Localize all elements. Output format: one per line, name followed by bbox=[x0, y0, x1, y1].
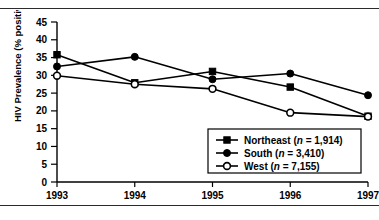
data-point-marker-open-circle bbox=[365, 113, 372, 120]
data-point-marker-filled-circle bbox=[365, 92, 372, 99]
data-point-marker-filled-square bbox=[287, 84, 293, 90]
y-axis-ticks: 051015202530354045 bbox=[36, 17, 57, 188]
y-tick-label: 40 bbox=[36, 34, 48, 45]
y-tick-label: 15 bbox=[36, 123, 48, 134]
data-point-marker-open-circle bbox=[224, 163, 231, 170]
y-tick-label: 0 bbox=[41, 177, 47, 188]
x-axis-ticks: 19931994199519961997 bbox=[46, 182, 379, 201]
legend-label: West (n = 7,155) bbox=[244, 161, 320, 172]
x-tick-label: 1996 bbox=[279, 190, 302, 201]
y-tick-label: 30 bbox=[36, 70, 48, 81]
bottom-horizontal-rule bbox=[0, 205, 379, 206]
data-point-marker-filled-square bbox=[54, 52, 60, 58]
y-axis-title: HIV Prevalence (% positive) bbox=[12, 10, 23, 122]
data-point-marker-filled-square bbox=[224, 137, 230, 143]
data-series-layer bbox=[54, 52, 372, 120]
x-tick-label: 1994 bbox=[124, 190, 147, 201]
data-point-marker-open-circle bbox=[54, 72, 61, 79]
data-point-marker-filled-circle bbox=[287, 70, 294, 77]
y-tick-label: 45 bbox=[36, 17, 48, 28]
y-tick-label: 25 bbox=[36, 88, 48, 99]
line-chart: HIV Prevalence (% positive) 051015202530… bbox=[0, 10, 379, 204]
data-point-marker-open-circle bbox=[209, 85, 216, 92]
y-tick-label: 35 bbox=[36, 52, 48, 63]
y-tick-label: 20 bbox=[36, 105, 48, 116]
y-axis-title-text: HIV Prevalence (% positive) bbox=[12, 10, 23, 122]
data-point-marker-filled-circle bbox=[224, 150, 231, 157]
figure-container: HIV Prevalence (% positive) 051015202530… bbox=[0, 0, 379, 220]
data-point-marker-open-circle bbox=[287, 109, 294, 116]
legend-label: Northeast (n = 1,914) bbox=[244, 135, 343, 146]
data-point-marker-filled-circle bbox=[54, 63, 61, 70]
y-tick-label: 5 bbox=[41, 159, 47, 170]
data-point-marker-filled-square bbox=[209, 68, 215, 74]
top-horizontal-rule bbox=[0, 8, 379, 9]
x-tick-label: 1995 bbox=[201, 190, 224, 201]
x-tick-label: 1997 bbox=[357, 190, 379, 201]
x-tick-label: 1993 bbox=[46, 190, 69, 201]
data-point-marker-filled-circle bbox=[131, 53, 138, 60]
data-point-marker-filled-circle bbox=[209, 76, 216, 83]
data-point-marker-open-circle bbox=[131, 81, 138, 88]
legend-label: South (n = 3,410) bbox=[244, 148, 324, 159]
y-tick-label: 10 bbox=[36, 141, 48, 152]
legend: Northeast (n = 1,914)South (n = 3,410)We… bbox=[208, 129, 361, 173]
